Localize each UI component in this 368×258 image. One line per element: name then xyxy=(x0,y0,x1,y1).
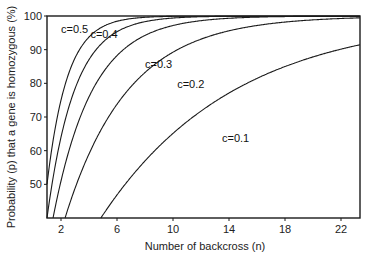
curve-labels: c=0.5c=0.4c=0.3c=0.2c=0.1 xyxy=(61,23,249,144)
x-tick-label: 6 xyxy=(114,223,120,235)
y-tick-label: 100 xyxy=(24,10,42,22)
x-tick-label: 14 xyxy=(223,223,235,235)
curve-c-02 xyxy=(65,18,360,218)
curve-label: c=0.3 xyxy=(145,58,172,70)
y-axis-label: Probability (p) that a gene is homozygou… xyxy=(5,6,17,229)
curve-c-04 xyxy=(47,16,360,218)
y-tick-label: 80 xyxy=(30,77,42,89)
x-axis-label: Number of backcross (n) xyxy=(145,240,265,252)
curves-group xyxy=(47,16,360,218)
y-axis: 5060708090100 xyxy=(24,10,47,190)
x-axis: 2610141822 xyxy=(58,218,347,235)
x-tick-label: 10 xyxy=(167,223,179,235)
x-tick-label: 2 xyxy=(58,223,64,235)
curve-label: c=0.1 xyxy=(222,132,249,144)
y-tick-label: 70 xyxy=(30,111,42,123)
y-tick-label: 60 xyxy=(30,145,42,157)
chart: 5060708090100 2610141822 c=0.5c=0.4c=0.3… xyxy=(0,0,368,258)
x-tick-label: 18 xyxy=(279,223,291,235)
curve-c-05 xyxy=(47,16,360,184)
y-tick-label: 50 xyxy=(30,178,42,190)
x-tick-label: 22 xyxy=(335,223,347,235)
curve-label: c=0.2 xyxy=(177,78,204,90)
curve-label: c=0.4 xyxy=(90,28,117,40)
y-tick-label: 90 xyxy=(30,44,42,56)
plot-frame xyxy=(47,16,360,218)
curve-label: c=0.5 xyxy=(61,23,88,35)
